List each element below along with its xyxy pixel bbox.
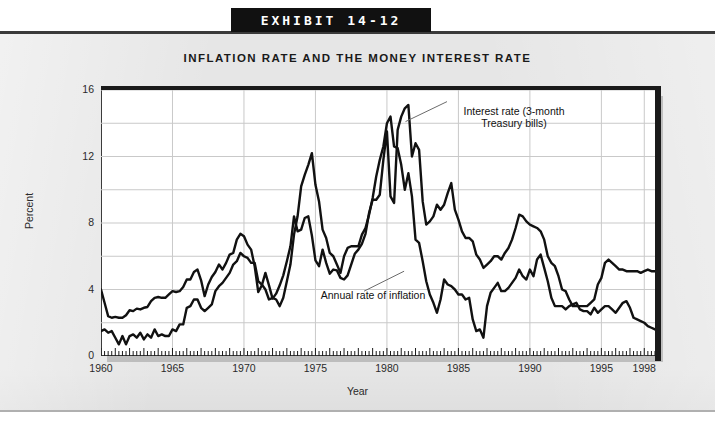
x-tick-label: 1970 [224,362,264,374]
y-tick-label: 0 [70,349,94,361]
annotation-interest-rate: Interest rate (3-month Treasury bills) [449,105,579,129]
chart-canvas [101,90,655,356]
x-tick-label: 1990 [510,362,550,374]
x-tick-label: 1960 [81,362,121,374]
y-tick-label: 16 [70,83,94,95]
y-tick-label: 12 [70,150,94,162]
annotation-inflation-rate: Annual rate of inflation [318,289,428,301]
x-tick-label: 1998 [624,362,664,374]
y-axis-title: Percent [23,176,35,246]
y-tick-label: 8 [70,216,94,228]
plot-frame-right [655,86,661,361]
exhibit-number-tag: EXHIBIT 14-12 [231,8,431,32]
x-tick-label: 1995 [581,362,621,374]
chart-title: INFLATION RATE AND THE MONEY INTEREST RA… [0,52,715,64]
x-axis-title: Year [0,385,715,397]
bottom-divider-rule [0,410,715,412]
plot-area [101,90,655,356]
x-tick-label: 1985 [438,362,478,374]
y-tick-label: 4 [70,283,94,295]
exhibit-figure: EXHIBIT 14-12 INFLATION RATE AND THE MON… [0,0,715,425]
x-tick-label: 1965 [152,362,192,374]
x-tick-label: 1980 [367,362,407,374]
x-tick-label: 1975 [295,362,335,374]
